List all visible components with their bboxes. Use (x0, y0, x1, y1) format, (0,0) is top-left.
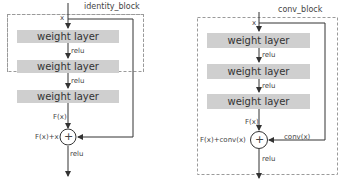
identity-weight-layer-2: weight layer (17, 60, 119, 73)
identity-branch-output-label: F(x) (53, 114, 67, 121)
conv-weight-layer-1: weight layer (207, 33, 310, 48)
identity-weight-layer-3: weight layer (17, 90, 119, 103)
conv-add-symbol: + (255, 134, 264, 145)
conv-relu-2: relu (262, 83, 275, 90)
conv-branch-output-label: F(x) (245, 119, 259, 126)
conv-shortcut-label: conv(x) (284, 134, 310, 141)
identity-relu-2: relu (71, 78, 84, 85)
conv-relu-1: relu (262, 52, 275, 59)
identity-add-symbol: + (64, 131, 73, 142)
conv-sum-label: F(x)+conv(x) (200, 137, 246, 144)
conv-input-label: x (252, 20, 256, 27)
identity-sum-label: F(x)+x (35, 134, 59, 141)
conv-weight-layer-3: weight layer (207, 94, 310, 109)
conv-weight-layer-2: weight layer (207, 64, 310, 79)
conv-block-title: conv_block (278, 6, 322, 14)
conv-output-relu: relu (262, 156, 275, 163)
identity-block-title: identity_block (84, 3, 140, 11)
identity-input-label: x (60, 15, 64, 22)
identity-weight-layer-1: weight layer (17, 30, 119, 43)
identity-output-relu: relu (70, 151, 83, 158)
identity-relu-1: relu (71, 48, 84, 55)
